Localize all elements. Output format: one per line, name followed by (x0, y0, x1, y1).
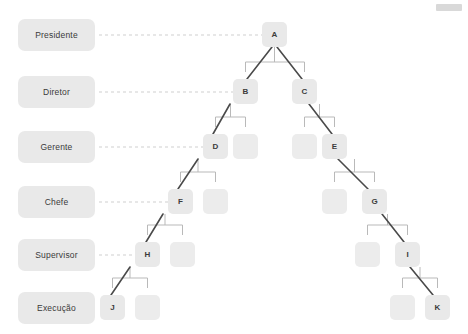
org-chart-diagram: Presidente Diretor Gerente Chefe Supervi… (0, 0, 468, 334)
connector-h-children (113, 267, 148, 288)
connector-e-children (335, 159, 375, 182)
tree-node-E[interactable]: E (322, 134, 347, 159)
level-label-text: Presidente (35, 30, 78, 40)
tree-node-label: D (213, 142, 219, 151)
tree-node-label: B (243, 87, 249, 96)
level-label-text: Execução (37, 303, 76, 313)
corner-marker (436, 4, 462, 11)
level-label-diretor: Diretor (18, 76, 95, 108)
level-label-supervisor: Supervisor (18, 239, 95, 271)
level-label-execucao: Execução (18, 292, 95, 324)
tree-node-I[interactable]: I (395, 242, 420, 267)
tree-node-A[interactable]: A (262, 22, 287, 47)
tree-node-D[interactable]: D (203, 134, 228, 159)
tree-node-F[interactable]: F (168, 189, 193, 214)
tree-node-H[interactable]: H (135, 242, 160, 267)
connector-f-children (148, 214, 183, 235)
tree-node-J[interactable]: J (100, 295, 125, 320)
tree-node-empty[interactable] (355, 242, 380, 267)
tree-node-empty[interactable] (292, 134, 317, 159)
tree-node-label: E (332, 142, 337, 151)
tree-node-G[interactable]: G (362, 189, 387, 214)
tree-node-label: F (178, 197, 183, 206)
level-label-text: Supervisor (35, 250, 78, 260)
tree-node-label: C (302, 87, 308, 96)
tree-node-empty[interactable] (135, 295, 160, 320)
tree-node-label: K (435, 303, 441, 312)
tree-node-C[interactable]: C (292, 79, 317, 104)
level-label-presidente: Presidente (18, 19, 95, 51)
level-label-gerente: Gerente (18, 131, 95, 163)
connector-c-children (305, 104, 335, 127)
connector-a-children (246, 47, 305, 72)
tree-node-label: H (145, 250, 151, 259)
level-label-text: Chefe (45, 197, 69, 207)
tree-node-empty[interactable] (322, 189, 347, 214)
tree-node-K[interactable]: K (425, 295, 450, 320)
level-label-chefe: Chefe (18, 186, 95, 218)
tree-node-empty[interactable] (203, 189, 228, 214)
tree-node-empty[interactable] (170, 242, 195, 267)
tree-node-empty[interactable] (233, 134, 258, 159)
tree-node-label: A (272, 30, 278, 39)
level-label-text: Diretor (43, 87, 70, 97)
tree-node-label: I (406, 250, 408, 259)
connector-d-children (181, 159, 216, 182)
level-label-text: Gerente (40, 142, 72, 152)
connector-b-children (216, 104, 246, 127)
connector-i-children (403, 267, 438, 288)
tree-node-empty[interactable] (390, 295, 415, 320)
tree-node-label: J (110, 303, 114, 312)
connector-g-children (368, 214, 408, 235)
tree-node-label: G (371, 197, 377, 206)
tree-node-B[interactable]: B (233, 79, 258, 104)
